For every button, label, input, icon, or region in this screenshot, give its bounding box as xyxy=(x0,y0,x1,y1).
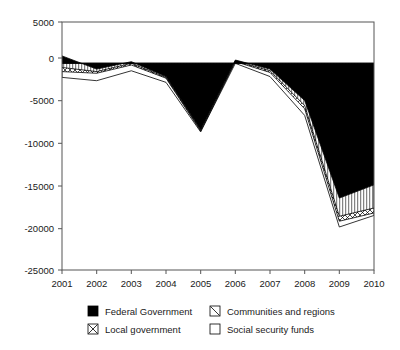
y-tick-label-minus20000: -20000 xyxy=(24,223,54,234)
y-tick-label-minus25000: -25000 xyxy=(24,265,54,276)
y-tick-label-minus5000: -5000 xyxy=(30,95,54,106)
legend-label-local-government: Local government xyxy=(105,324,181,335)
x-tick-label-2004: 2004 xyxy=(155,278,176,289)
x-axis-ticks xyxy=(62,270,374,274)
x-tick-label-2001: 2001 xyxy=(51,278,72,289)
y-tick-label-0: 0 xyxy=(49,53,54,64)
y-tick-label-5000: 5000 xyxy=(33,17,54,28)
legend-label-federal-government: Federal Government xyxy=(105,306,192,317)
y-tick-label-minus10000: -10000 xyxy=(24,138,54,149)
legend-swatch-solid-black-icon xyxy=(88,306,98,316)
x-tick-label-2003: 2003 xyxy=(121,278,142,289)
legend-item-social-security-funds[interactable]: Social security funds xyxy=(210,324,314,335)
x-tick-label-2006: 2006 xyxy=(225,278,246,289)
legend-item-federal-government[interactable]: Federal Government xyxy=(88,306,192,317)
x-tick-label-2005: 2005 xyxy=(190,278,211,289)
y-axis-ticks xyxy=(58,22,62,270)
legend-item-local-government[interactable]: Local government xyxy=(88,324,181,335)
x-tick-label-2002: 2002 xyxy=(86,278,107,289)
chart-legend: Federal Government Communities and regio… xyxy=(88,306,335,335)
legend-label-communities-and-regions: Communities and regions xyxy=(227,306,335,317)
legend-label-social-security-funds: Social security funds xyxy=(227,324,314,335)
x-tick-label-2010: 2010 xyxy=(363,278,384,289)
area-chart-svg: 5000 0 -5000 -10000 -15000 -20000 -25000… xyxy=(0,0,400,350)
x-tick-label-2008: 2008 xyxy=(294,278,315,289)
x-tick-label-2007: 2007 xyxy=(259,278,280,289)
y-tick-label-minus15000: -15000 xyxy=(24,181,54,192)
legend-swatch-white-icon xyxy=(210,324,220,334)
chart-container: 5000 0 -5000 -10000 -15000 -20000 -25000… xyxy=(0,0,400,350)
legend-item-communities-and-regions[interactable]: Communities and regions xyxy=(210,306,335,317)
x-tick-label-2009: 2009 xyxy=(329,278,350,289)
